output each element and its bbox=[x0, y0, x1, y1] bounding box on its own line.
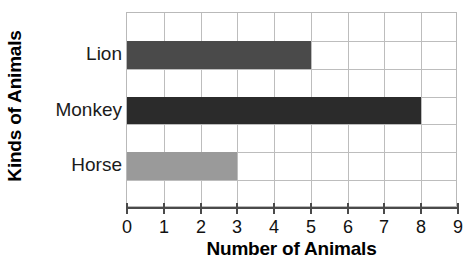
gridline-horizontal bbox=[127, 69, 456, 70]
x-axis-tick-label: 3 bbox=[225, 218, 249, 236]
bar-chart: Kinds of Animals LionMonkeyHorse 0123456… bbox=[0, 0, 473, 269]
x-axis-tick bbox=[163, 203, 165, 214]
bar-lion bbox=[127, 41, 311, 69]
gridline-horizontal bbox=[127, 124, 456, 125]
x-axis-tick bbox=[236, 203, 238, 214]
x-axis-line bbox=[126, 207, 457, 209]
x-axis-tick bbox=[383, 203, 385, 214]
x-axis-tick bbox=[347, 203, 349, 214]
x-axis: 0123456789 bbox=[126, 207, 457, 208]
bar-horse bbox=[127, 152, 237, 180]
x-axis-tick bbox=[200, 203, 202, 214]
x-axis-tick-label: 6 bbox=[336, 218, 360, 236]
x-axis-tick bbox=[420, 203, 422, 214]
x-axis-title: Number of Animals bbox=[126, 238, 457, 260]
x-axis-tick bbox=[310, 203, 312, 214]
category-label-group: LionMonkeyHorse bbox=[32, 12, 124, 207]
x-axis-tick-label: 2 bbox=[189, 218, 213, 236]
x-axis-tick bbox=[457, 203, 459, 214]
x-axis-tick-label: 1 bbox=[152, 218, 176, 236]
x-axis-tick-label: 8 bbox=[409, 218, 433, 236]
plot-area bbox=[126, 12, 457, 207]
bar-monkey bbox=[127, 97, 421, 124]
x-axis-tick-label: 7 bbox=[372, 218, 396, 236]
x-axis-tick bbox=[126, 203, 128, 214]
x-axis-tick-label: 0 bbox=[115, 218, 139, 236]
y-axis-title-text: Kinds of Animals bbox=[4, 30, 26, 181]
x-axis-tick-label: 4 bbox=[262, 218, 286, 236]
x-axis-tick-label: 5 bbox=[299, 218, 323, 236]
gridline-horizontal bbox=[127, 180, 456, 181]
category-label-horse: Horse bbox=[30, 155, 122, 174]
category-label-monkey: Monkey bbox=[30, 100, 122, 119]
x-axis-tick bbox=[273, 203, 275, 214]
category-label-lion: Lion bbox=[30, 44, 122, 63]
x-axis-tick-label: 9 bbox=[446, 218, 470, 236]
y-axis-title: Kinds of Animals bbox=[0, 0, 30, 212]
